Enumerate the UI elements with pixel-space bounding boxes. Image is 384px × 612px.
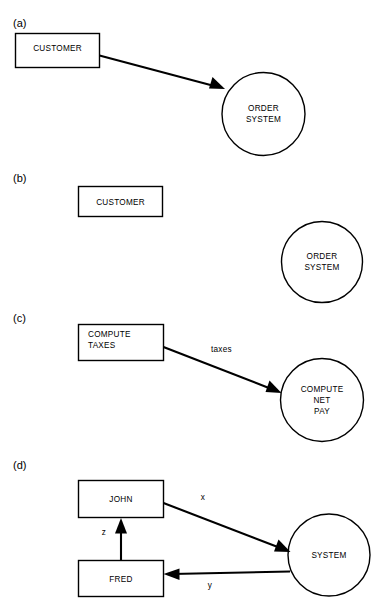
edge-c-taxes[interactable]: taxes <box>164 345 282 393</box>
node-a-order-system-shape <box>222 73 305 156</box>
panel-d-label: (d) <box>13 459 26 471</box>
panel-b-label: (b) <box>13 172 26 184</box>
edge-a-arrow-head <box>209 77 225 89</box>
edge-d-y[interactable]: y <box>164 569 291 591</box>
node-c-compute-taxes-label-line1: COMPUTE <box>88 330 131 339</box>
edge-c-arrow-head <box>266 381 282 394</box>
edge-c-label: taxes <box>211 345 232 354</box>
node-a-order-system[interactable]: ORDER SYSTEM <box>222 73 305 156</box>
edge-d-x-line <box>164 503 284 549</box>
node-d-fred[interactable]: FRED <box>79 561 164 597</box>
node-b-order-system-label-line1: ORDER <box>307 252 338 261</box>
panel-b: (b) CUSTOMER ORDER SYSTEM <box>13 172 363 303</box>
panel-d: (d) JOHN FRED SYSTEM x <box>13 459 370 597</box>
node-d-system-label: SYSTEM <box>311 551 346 560</box>
node-c-compute-net-pay-label-line3: PAY <box>314 407 330 416</box>
node-d-john[interactable]: JOHN <box>79 481 164 518</box>
edge-d-z[interactable]: z <box>102 518 127 560</box>
node-c-compute-net-pay-label-line1: COMPUTE <box>301 385 344 394</box>
node-a-order-system-label-line2: SYSTEM <box>246 115 281 124</box>
panel-a-label: (a) <box>13 17 26 29</box>
node-a-customer-label: CUSTOMER <box>33 44 82 53</box>
node-b-order-system-label-line2: SYSTEM <box>304 263 339 272</box>
node-b-order-system-shape <box>282 222 363 303</box>
node-c-compute-net-pay-label-line2: NET <box>313 396 330 405</box>
edge-d-y-label: y <box>208 581 213 590</box>
node-d-fred-label: FRED <box>109 575 132 584</box>
panel-c-label: (c) <box>13 312 26 324</box>
edge-d-x-arrow-head <box>274 540 291 553</box>
node-d-john-label: JOHN <box>109 495 132 504</box>
edge-d-z-label: z <box>102 528 106 537</box>
node-b-customer[interactable]: CUSTOMER <box>79 187 163 217</box>
node-b-order-system[interactable]: ORDER SYSTEM <box>282 222 363 303</box>
node-a-customer[interactable]: CUSTOMER <box>16 34 100 68</box>
panel-a: (a) CUSTOMER ORDER SYSTEM <box>13 17 305 156</box>
diagram-root: (a) CUSTOMER ORDER SYSTEM (b) <box>0 0 384 612</box>
figure-canvas: (a) CUSTOMER ORDER SYSTEM (b) <box>0 0 384 612</box>
node-d-system[interactable]: SYSTEM <box>288 514 370 596</box>
edge-a-customer-to-order-system[interactable] <box>100 56 226 90</box>
panel-c: (c) COMPUTE TAXES COMPUTE NET PAY taxes <box>13 312 364 442</box>
edge-d-z-arrow-head <box>115 518 127 534</box>
edge-a-line <box>100 56 219 88</box>
edge-d-y-line <box>172 572 290 575</box>
node-c-compute-net-pay[interactable]: COMPUTE NET PAY <box>281 359 364 442</box>
edge-d-y-arrow-head <box>164 569 180 581</box>
edge-d-x[interactable]: x <box>164 493 291 552</box>
node-c-compute-taxes-label-line2: TAXES <box>88 341 116 350</box>
node-c-compute-taxes[interactable]: COMPUTE TAXES <box>79 325 164 361</box>
node-a-order-system-label-line1: ORDER <box>248 104 279 113</box>
edge-d-x-label: x <box>201 493 205 502</box>
node-b-customer-label: CUSTOMER <box>96 198 145 207</box>
